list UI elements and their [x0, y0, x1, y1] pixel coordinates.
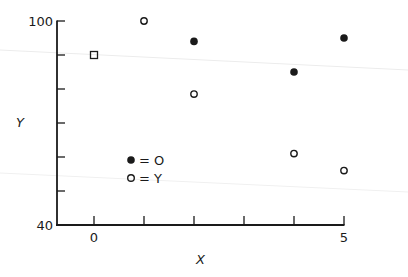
point-open-circle-icon — [341, 167, 347, 173]
x-tick-label: 0 — [90, 230, 98, 245]
point-filled-circle-icon — [190, 38, 198, 46]
legend: = O = Y — [127, 153, 164, 186]
y-axis-title: Y — [16, 115, 25, 130]
legend-label-o: = O — [139, 153, 164, 168]
scan-artifact-line — [0, 50, 408, 70]
legend-label-y: = Y — [139, 171, 162, 186]
x-axis-title: X — [195, 252, 206, 267]
axes: 4010005 — [28, 14, 348, 245]
legend-open-circle-icon — [128, 175, 135, 182]
legend-filled-circle-icon — [127, 156, 135, 164]
y-tick-label: 100 — [28, 14, 53, 29]
point-open-circle-icon — [291, 150, 297, 156]
point-open-circle-icon — [191, 91, 197, 97]
data-points — [91, 18, 348, 174]
x-tick-label: 5 — [340, 230, 348, 245]
point-filled-circle-icon — [290, 68, 298, 76]
scatter-chart: 4010005 = O = Y Y X — [0, 0, 408, 277]
point-open-circle-icon — [141, 18, 147, 24]
y-tick-label: 40 — [36, 218, 53, 233]
scan-artifact-line — [0, 173, 408, 192]
point-filled-circle-icon — [340, 34, 348, 42]
